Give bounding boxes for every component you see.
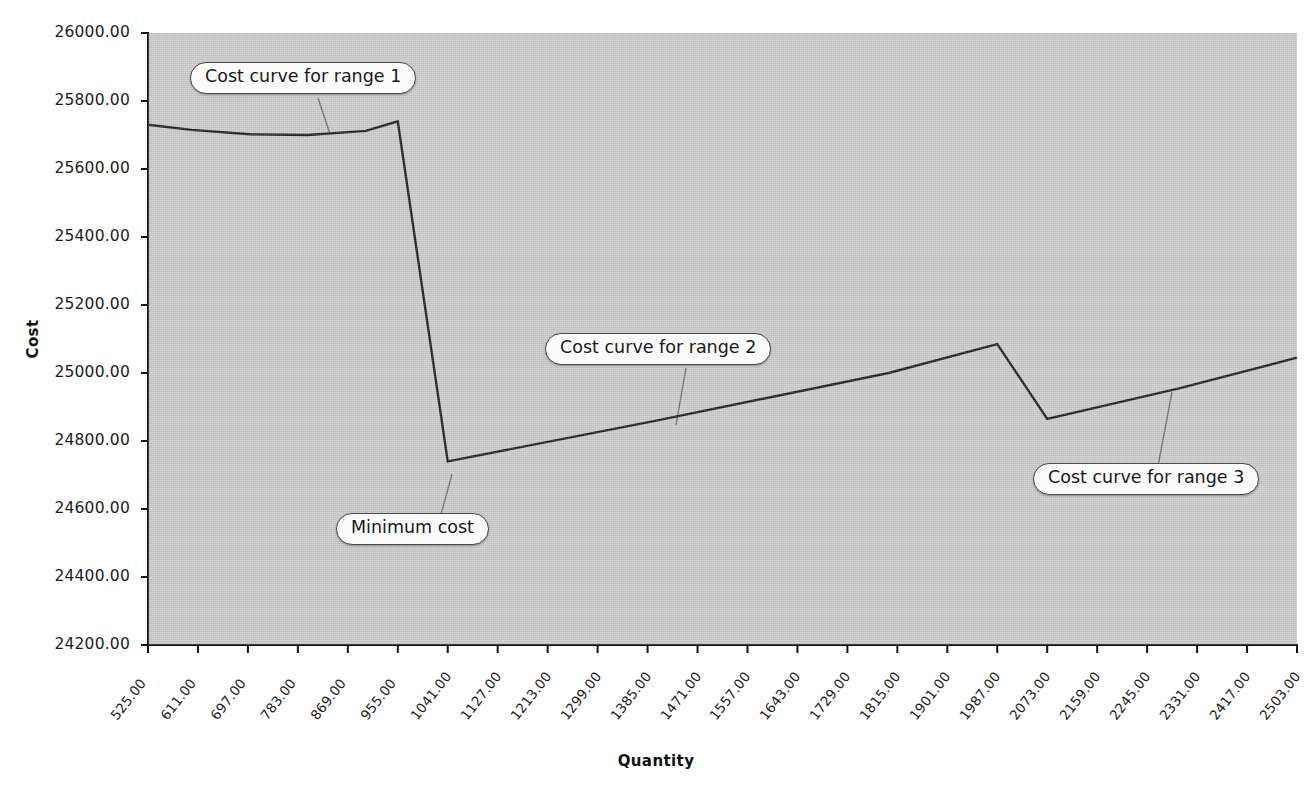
y-axis-tick-label: 25600.00 <box>0 159 130 177</box>
y-axis-title: Cost <box>24 299 42 379</box>
annotation-cost-curve-range-2[interactable]: Cost curve for range 2 <box>545 333 771 365</box>
y-axis-tick-label: 24200.00 <box>0 635 130 653</box>
annotation-cost-curve-range-3[interactable]: Cost curve for range 3 <box>1033 463 1259 495</box>
y-axis-tick-label: 24400.00 <box>0 567 130 585</box>
chart-canvas: 24200.0024400.0024600.0024800.0025000.00… <box>0 0 1312 791</box>
y-axis-tick-label: 25200.00 <box>0 295 130 313</box>
y-axis-tick-label: 25400.00 <box>0 227 130 245</box>
x-axis-title: Quantity <box>0 752 1312 770</box>
annotation-cost-curve-range-1[interactable]: Cost curve for range 1 <box>190 62 416 94</box>
cost-curve-chart <box>0 0 1312 791</box>
y-axis-tick-label: 26000.00 <box>0 23 130 41</box>
y-axis-tick-label: 24600.00 <box>0 499 130 517</box>
annotation-minimum-cost[interactable]: Minimum cost <box>336 513 489 545</box>
y-axis-tick-label: 24800.00 <box>0 431 130 449</box>
y-axis-tick-label: 25800.00 <box>0 91 130 109</box>
y-axis-tick-label: 25000.00 <box>0 363 130 381</box>
